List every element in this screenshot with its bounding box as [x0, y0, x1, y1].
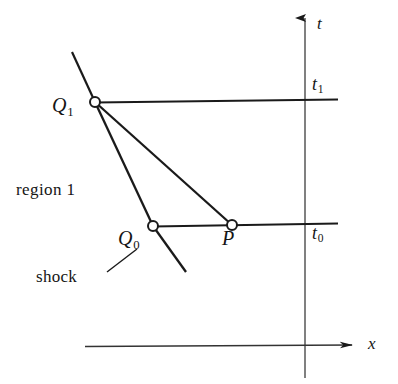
x-axis-label: x	[368, 335, 376, 352]
characteristic-q1-p	[95, 102, 232, 225]
x-axis-line	[85, 345, 352, 347]
point-marker-q1	[90, 97, 100, 107]
t-axis-label: t	[317, 15, 322, 32]
shock-label-leader	[107, 249, 137, 272]
point-label-p: P	[222, 228, 234, 248]
shock-annotation: shock	[36, 268, 77, 285]
shock-curve-middle	[95, 102, 153, 226]
shock-curve-lower	[153, 226, 186, 272]
time-level-label-t1: t1	[312, 75, 323, 93]
figure-root: Q1 Q0 P t t1 t0 x region 1 shock	[0, 0, 398, 384]
region-annotation: region 1	[16, 181, 75, 198]
time-level-line-t0	[153, 224, 338, 227]
point-marker-q0	[148, 221, 158, 231]
point-label-q0: Q0	[118, 228, 139, 248]
shock-curve-upper	[72, 52, 95, 102]
time-level-line-t1	[95, 100, 338, 103]
time-level-label-t0: t0	[312, 224, 323, 242]
point-label-q1: Q1	[52, 95, 73, 115]
